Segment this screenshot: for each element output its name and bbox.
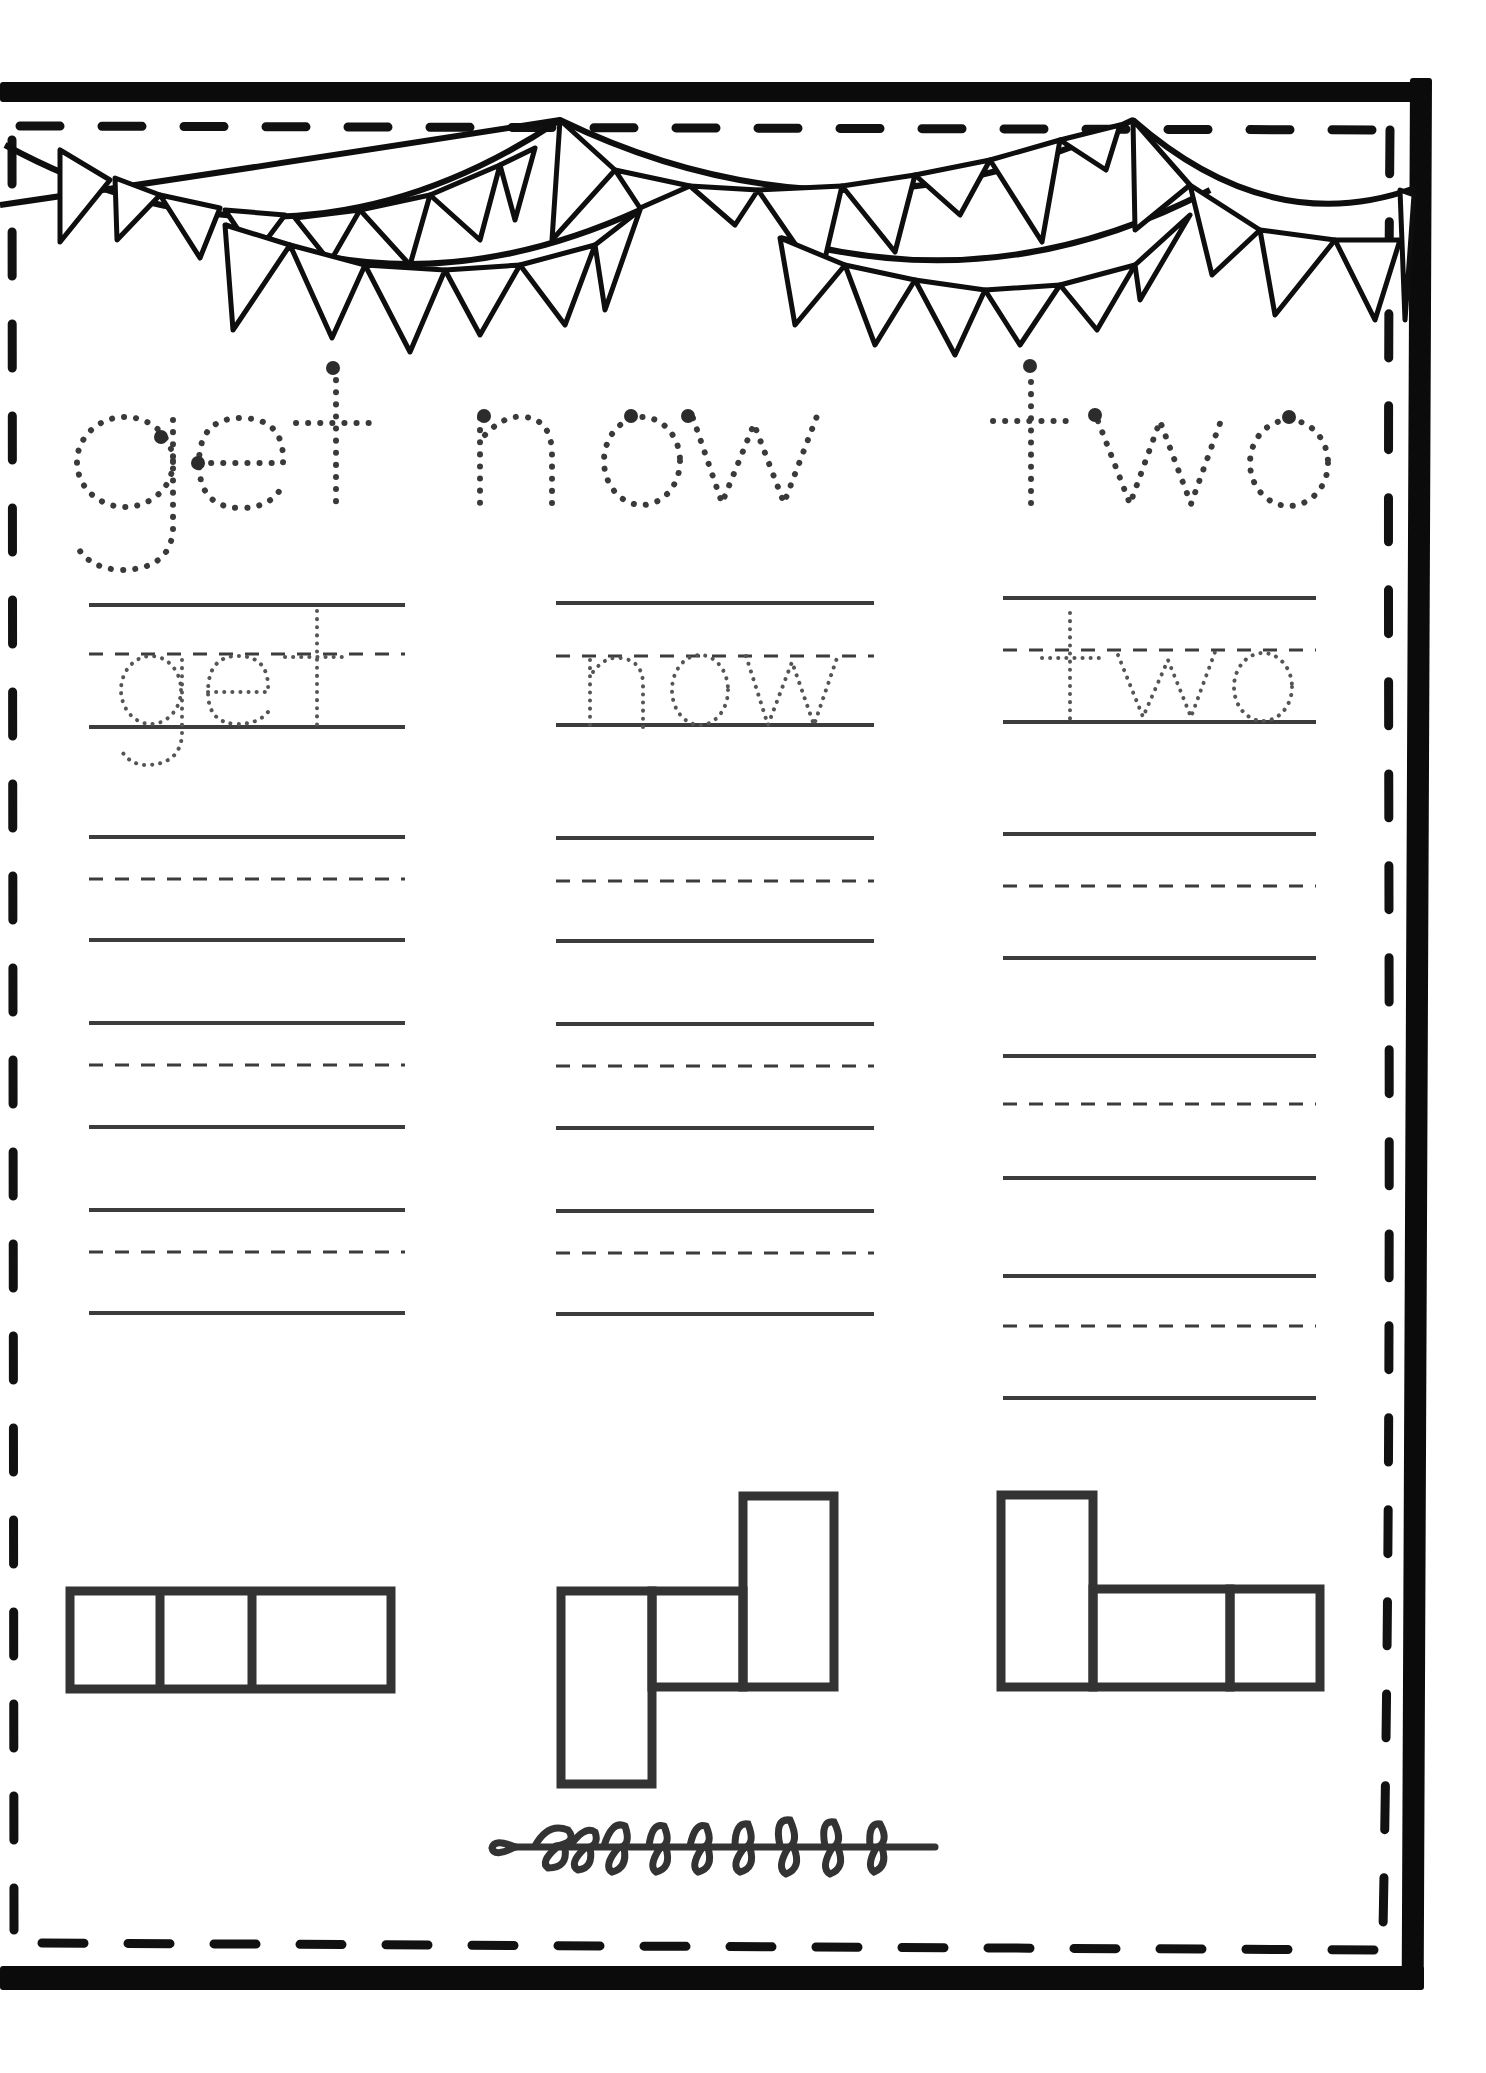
bunting-flags-icon	[0, 120, 1415, 355]
letter-box-area-two[interactable]	[997, 1491, 1325, 1691]
writing-area-two[interactable]	[1003, 825, 1316, 1405]
writing-area-now[interactable]	[556, 830, 874, 1320]
leafy-vine-icon	[492, 1820, 935, 1874]
letter-box-area-now[interactable]	[557, 1492, 839, 1788]
worksheet-page: get now two get now two	[0, 0, 1486, 2073]
letter-box-area-get[interactable]	[66, 1587, 396, 1693]
writing-area-get[interactable]	[89, 830, 405, 1320]
